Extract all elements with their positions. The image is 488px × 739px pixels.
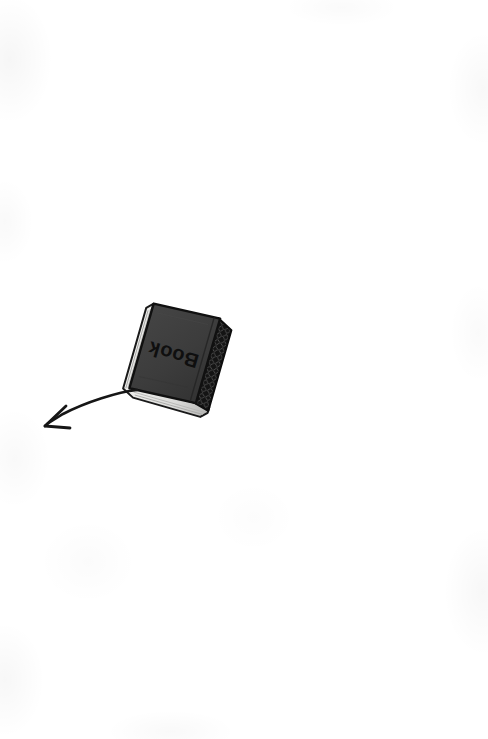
book-object: Book xyxy=(121,298,233,418)
pointer-arrow xyxy=(45,390,137,428)
image-canvas: Book xyxy=(0,0,488,739)
scene-illustration: Book xyxy=(0,0,488,739)
